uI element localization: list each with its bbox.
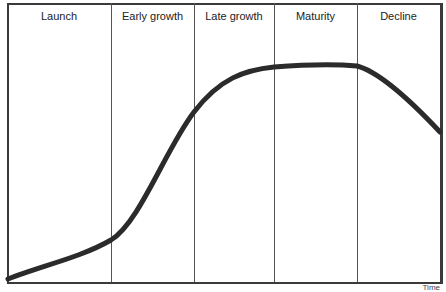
x-axis-label: Time: [423, 283, 440, 292]
